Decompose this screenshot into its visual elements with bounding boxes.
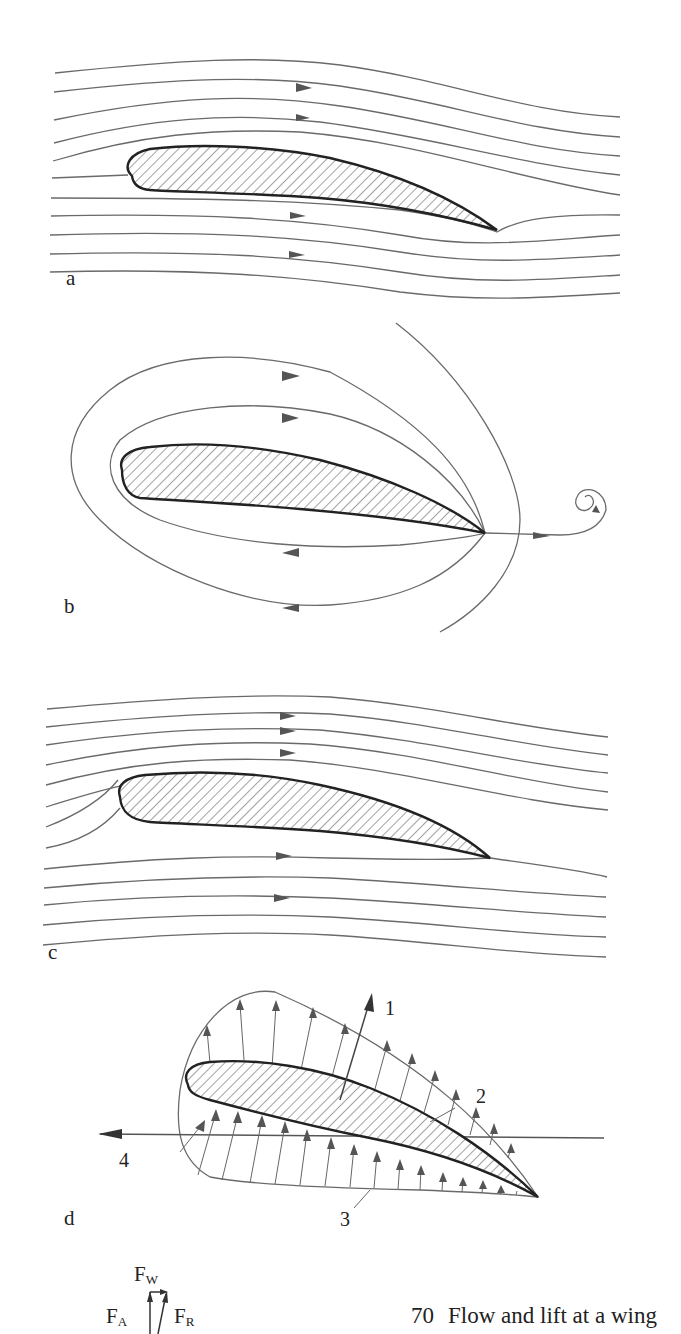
panel-d: 1 2 3 4 d [0,960,681,1250]
panel-a-diagram [0,50,681,310]
panel-a-label: a [66,266,75,291]
force-fw: FW [134,1262,158,1288]
panel-c: c [0,650,681,960]
panel-c-diagram [0,650,681,960]
panel-d-label: d [64,1206,75,1231]
panel-b: b [0,320,681,640]
panel-d-diagram: 1 2 3 4 [0,960,681,1250]
label-4: 4 [119,1149,129,1171]
label-2: 2 [476,1085,486,1107]
force-fa: FA [106,1304,127,1330]
figure-number: 70 [411,1303,434,1328]
figure-caption-text: Flow and lift at a wing [448,1303,657,1328]
airfoil [128,146,497,230]
airfoil [119,772,490,858]
force-triangle-icon [144,1286,174,1334]
airfoil [121,445,485,533]
figure-caption: 70Flow and lift at a wing [411,1303,657,1329]
panel-b-diagram [0,320,681,640]
panel-b-label: b [64,594,75,619]
force-legend: FW FA FR [106,1262,226,1334]
panel-a: a [0,50,681,310]
force-fr: FR [174,1304,194,1330]
label-1: 1 [385,997,395,1019]
airfoil [186,1061,538,1197]
label-3: 3 [340,1208,350,1230]
